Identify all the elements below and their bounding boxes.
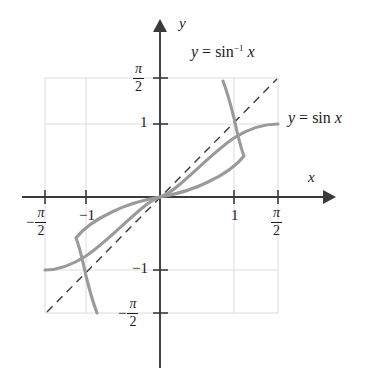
y-neg-pi-numerator: π [127, 297, 138, 312]
tick-label-y-pos-pi-over-2: π2 [133, 62, 144, 94]
x-neg-pi-denominator: 2 [35, 224, 46, 239]
y-axis-arrowhead [153, 19, 167, 32]
x-axis-arrowhead [323, 190, 336, 204]
tick-label-x-neg-one: −1 [79, 208, 95, 223]
arcsine-label-arg: x [247, 43, 254, 60]
y-neg-pi-over-2-fraction: π2 [127, 297, 138, 329]
x-neg-pi-numerator: π [35, 206, 46, 221]
y-neg-pi-denominator: 2 [127, 315, 138, 330]
x-neg-pi-over-2-fraction: π2 [35, 206, 46, 238]
curve-label-arcsine: y = sin−1 x [191, 44, 255, 60]
tick-label-y-pos-one: 1 [140, 115, 148, 130]
tick-label-x-pos-one: 1 [231, 208, 239, 223]
tick-label-x-pos-pi-over-2: π2 [271, 206, 282, 238]
sine-label-equals: = [299, 109, 308, 126]
sine-label-fn: sin [312, 109, 331, 126]
curve-label-sine: y = sin x [288, 110, 342, 126]
tick-label-y-neg-one: −1 [132, 261, 148, 276]
sine-label-arg: x [335, 109, 342, 126]
tick-label-y-neg-pi-over-2: −π2 [118, 297, 138, 329]
y-pos-pi-over-2-fraction: π2 [133, 62, 144, 94]
y-axis-label: y [179, 16, 186, 31]
y-neg-pi-minus-sign: − [118, 306, 127, 321]
arcsine-label-exponent: −1 [234, 43, 244, 53]
x-pos-pi-numerator: π [271, 206, 282, 221]
y-pos-pi-denominator: 2 [133, 80, 144, 95]
arcsine-label-fn: sin [215, 43, 234, 60]
x-pos-pi-over-2-fraction: π2 [271, 206, 282, 238]
x-pos-pi-denominator: 2 [271, 224, 282, 239]
y-pos-pi-numerator: π [133, 62, 144, 77]
tick-label-x-neg-pi-over-2: −π2 [26, 206, 46, 238]
sine-arcsine-graph [0, 0, 375, 372]
x-axis-label: x [308, 170, 315, 185]
x-neg-pi-minus-sign: − [26, 215, 35, 230]
arcsine-label-equals: = [202, 43, 211, 60]
